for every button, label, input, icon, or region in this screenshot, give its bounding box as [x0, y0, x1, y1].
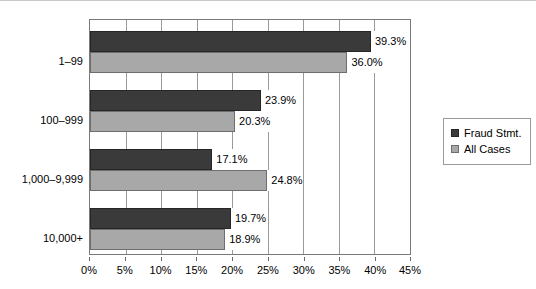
- axis-tick: [161, 257, 162, 261]
- bar-value-label: 36.0%: [347, 52, 382, 73]
- axis-tick: [339, 257, 340, 261]
- bar-fraud-stmt[interactable]: [90, 208, 231, 229]
- axis-tick: [410, 257, 411, 261]
- axis-tick-label: 15%: [185, 264, 207, 276]
- bar-value-label: 18.9%: [225, 229, 260, 250]
- axis-tick-label: 40%: [364, 264, 386, 276]
- plot-area: 39.3% 36.0% 23.9% 20.3% 17.1% 24.8% 19.7…: [89, 19, 411, 255]
- bar-value-label: 20.3%: [235, 111, 270, 132]
- chart-legend: Fraud Stmt. All Cases: [443, 118, 531, 165]
- legend-label: All Cases: [464, 143, 510, 155]
- category-label: 100–999: [0, 114, 83, 126]
- bar-fraud-stmt[interactable]: [90, 149, 212, 170]
- category-label: 1,000–9,999: [0, 173, 83, 185]
- legend-swatch-icon: [451, 129, 459, 137]
- legend-label: Fraud Stmt.: [464, 127, 521, 139]
- axis-tick: [375, 257, 376, 261]
- bar-all-cases[interactable]: [90, 111, 235, 132]
- axis-tick: [89, 257, 90, 261]
- bar-all-cases[interactable]: [90, 170, 267, 191]
- axis-tick-label: 10%: [150, 264, 172, 276]
- legend-item-all-cases[interactable]: All Cases: [451, 141, 521, 157]
- axis-tick: [304, 257, 305, 261]
- bar-value-label: 24.8%: [267, 170, 302, 191]
- category-label: 1–99: [0, 55, 83, 67]
- axis-tick: [125, 257, 126, 261]
- legend-swatch-icon: [451, 145, 459, 153]
- axis-tick: [268, 257, 269, 261]
- legend-item-fraud-stmt[interactable]: Fraud Stmt.: [451, 125, 521, 141]
- axis-tick: [196, 257, 197, 261]
- bar-value-label: 23.9%: [261, 90, 296, 111]
- category-axis: 1–99 100–999 1,000–9,999 10,000+: [0, 19, 83, 255]
- bar-all-cases[interactable]: [90, 229, 225, 250]
- category-label: 10,000+: [0, 232, 83, 244]
- axis-tick-label: 5%: [117, 264, 133, 276]
- bar-all-cases[interactable]: [90, 52, 347, 73]
- chart-figure: 1–99 100–999 1,000–9,999 10,000+ 39.3% 3…: [0, 0, 536, 289]
- axis-tick: [232, 257, 233, 261]
- value-axis: 0% 5% 10% 15% 20% 25% 30% 35% 40% 45%: [89, 257, 411, 283]
- bar-value-label: 19.7%: [231, 208, 266, 229]
- bar-value-label: 17.1%: [212, 149, 247, 170]
- axis-tick-label: 20%: [221, 264, 243, 276]
- axis-tick-label: 45%: [399, 264, 421, 276]
- bar-fraud-stmt[interactable]: [90, 90, 261, 111]
- axis-tick-label: 25%: [257, 264, 279, 276]
- axis-tick-label: 0%: [81, 264, 97, 276]
- bar-fraud-stmt[interactable]: [90, 31, 371, 52]
- bar-value-label: 39.3%: [371, 31, 406, 52]
- axis-tick-label: 35%: [328, 264, 350, 276]
- axis-tick-label: 30%: [293, 264, 315, 276]
